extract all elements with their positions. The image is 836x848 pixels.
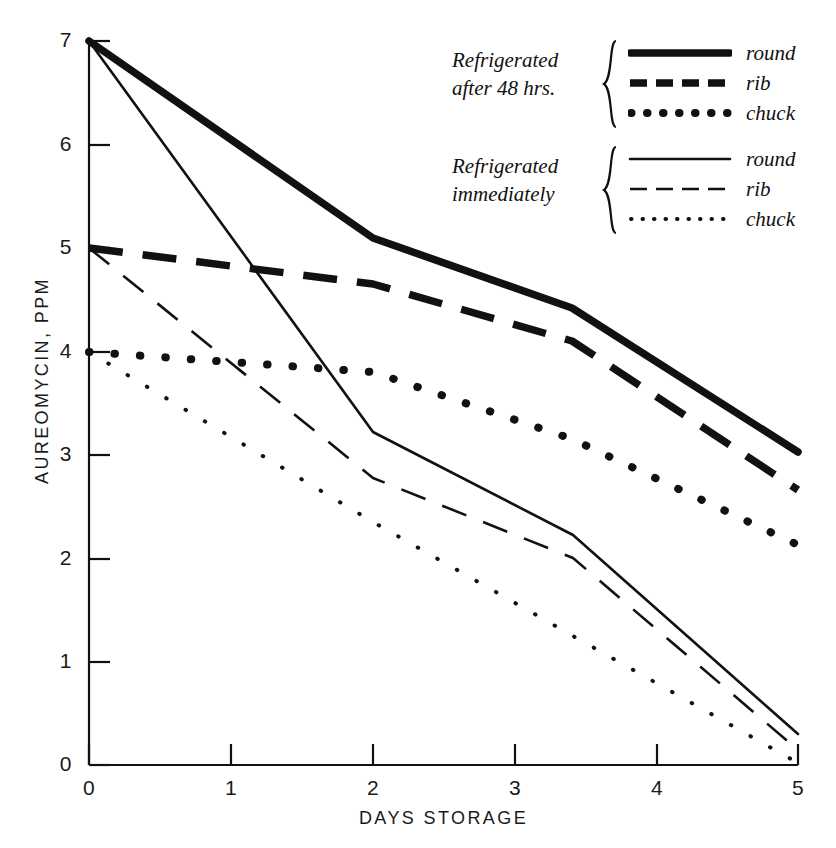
- legend-swatch-dashed-thin: [628, 182, 732, 196]
- legend-item-chuck-immediate[interactable]: chuck: [628, 204, 822, 234]
- legend-swatch-solid-thin: [628, 152, 732, 166]
- legend-label: rib: [746, 177, 771, 202]
- legend-caption-line-2: after 48 hrs.: [452, 74, 600, 102]
- x-tick-label-4: 4: [642, 776, 672, 800]
- legend-swatch-dotted-thick: [628, 106, 732, 120]
- x-axis-ticks: [89, 744, 798, 765]
- legend-group-caption: Refrigerated immediately: [452, 152, 600, 208]
- y-axis-title: AUREOMYCIN, PPM: [32, 261, 53, 501]
- y-tick-label-5: 5: [44, 235, 72, 259]
- legend-group-caption: Refrigerated after 48 hrs.: [452, 46, 600, 102]
- legend-brace-icon: [602, 38, 624, 130]
- legend-label: rib: [746, 71, 771, 96]
- legend-entries: round rib chuck: [628, 144, 822, 234]
- y-tick-label-6: 6: [44, 132, 72, 156]
- legend-group-immediately: Refrigerated immediately round: [452, 144, 822, 236]
- legend-caption-line-1: Refrigerated: [452, 152, 600, 180]
- x-tick-label-0: 0: [74, 776, 104, 800]
- legend-label: round: [746, 147, 795, 172]
- legend-item-rib-after48[interactable]: rib: [628, 68, 822, 98]
- x-tick-label-1: 1: [216, 776, 246, 800]
- legend-item-chuck-after48[interactable]: chuck: [628, 98, 822, 128]
- chart-figure: 7 6 5 4 3 2 1 0 0 1 2 3 4 5 AUREOMYCIN, …: [0, 0, 836, 848]
- x-tick-label-5: 5: [783, 776, 813, 800]
- legend-label: chuck: [746, 101, 795, 126]
- legend-entries: round rib chuck: [628, 38, 822, 128]
- series-chuck-immediate: [89, 352, 798, 763]
- legend-item-round-immediate[interactable]: round: [628, 144, 822, 174]
- y-tick-label-0: 0: [44, 752, 72, 776]
- legend-brace-icon: [602, 144, 624, 236]
- legend-label: chuck: [746, 207, 795, 232]
- legend-item-round-after48[interactable]: round: [628, 38, 822, 68]
- legend-caption-line-1: Refrigerated: [452, 46, 600, 74]
- y-tick-label-2: 2: [44, 546, 72, 570]
- legend-swatch-dotted-thin: [628, 212, 732, 226]
- x-tick-label-3: 3: [500, 776, 530, 800]
- y-tick-label-7: 7: [44, 28, 72, 52]
- x-tick-label-2: 2: [358, 776, 388, 800]
- y-tick-label-1: 1: [44, 649, 72, 673]
- chart-legend: Refrigerated after 48 hrs. round: [452, 36, 822, 236]
- legend-item-rib-immediate[interactable]: rib: [628, 174, 822, 204]
- x-axis-title: DAYS STORAGE: [89, 808, 798, 829]
- series-rib-after48: [89, 248, 798, 490]
- legend-caption-line-2: immediately: [452, 180, 600, 208]
- legend-label: round: [746, 41, 795, 66]
- legend-group-after-48-hrs: Refrigerated after 48 hrs. round: [452, 38, 822, 130]
- series-rib-immediate: [89, 248, 798, 750]
- legend-swatch-dashed-thick: [628, 76, 732, 90]
- legend-swatch-solid-thick: [628, 46, 732, 60]
- y-axis-ticks: [89, 41, 110, 765]
